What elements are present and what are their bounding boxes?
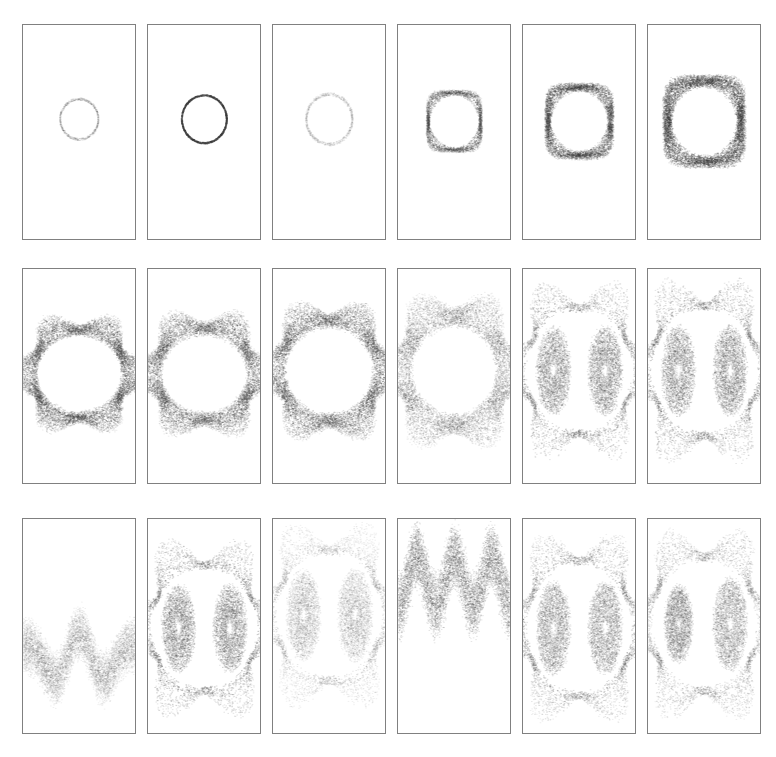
- phase-portrait-panel-14: [147, 518, 261, 734]
- panel-plot-6: [648, 25, 760, 239]
- point-cloud-tier-3: [427, 91, 482, 152]
- phase-portrait-panel-2: [147, 24, 261, 240]
- point-cloud-tier-2: [398, 298, 510, 444]
- point-cloud-tier-1: [305, 93, 353, 146]
- panel-plot-14: [148, 519, 260, 733]
- panel-plot-2: [148, 25, 260, 239]
- phase-portrait-panel-17: [522, 518, 636, 734]
- panel-grid: [0, 0, 776, 757]
- phase-portrait-panel-11: [522, 268, 636, 484]
- panel-plot-4: [398, 25, 510, 239]
- point-cloud-tier-2: [398, 520, 510, 643]
- point-cloud-tier-3: [23, 320, 135, 429]
- phase-portrait-panel-9: [272, 268, 386, 484]
- point-cloud-tier-1: [670, 351, 738, 390]
- phase-portrait-panel-15: [272, 518, 386, 734]
- panel-plot-3: [273, 25, 385, 239]
- phase-portrait-panel-4: [397, 24, 511, 240]
- panel-plot-9: [273, 269, 385, 483]
- phase-portrait-panel-10: [397, 268, 511, 484]
- panel-plot-10: [398, 269, 510, 483]
- phase-portrait-panel-18: [647, 518, 761, 734]
- panel-plot-17: [523, 519, 635, 733]
- phase-portrait-panel-13: [22, 518, 136, 734]
- point-cloud-tier-4: [181, 95, 227, 144]
- panel-plot-8: [148, 269, 260, 483]
- phase-portrait-panel-7: [22, 268, 136, 484]
- phase-portrait-panel-5: [522, 24, 636, 240]
- point-cloud-tier-1: [546, 351, 614, 390]
- panel-plot-5: [523, 25, 635, 239]
- phase-portrait-panel-12: [647, 268, 761, 484]
- phase-portrait-panel-16: [397, 518, 511, 734]
- panel-plot-7: [23, 269, 135, 483]
- phase-portrait-panel-8: [147, 268, 261, 484]
- panel-plot-13: [23, 519, 135, 733]
- panel-plot-18: [648, 519, 760, 733]
- point-cloud-tier-4: [665, 78, 743, 165]
- panel-plot-11: [523, 269, 635, 483]
- point-cloud-tier-2: [648, 532, 760, 716]
- panel-plot-16: [398, 519, 510, 733]
- panel-plot-15: [273, 519, 385, 733]
- figure-canvas: [0, 0, 776, 757]
- phase-portrait-panel-1: [22, 24, 136, 240]
- panel-plot-12: [648, 269, 760, 483]
- phase-portrait-panel-3: [272, 24, 386, 240]
- panel-plot-1: [23, 25, 135, 239]
- point-cloud-tier-3: [545, 84, 613, 159]
- point-cloud-tier-1: [59, 98, 99, 140]
- phase-portrait-panel-6: [647, 24, 761, 240]
